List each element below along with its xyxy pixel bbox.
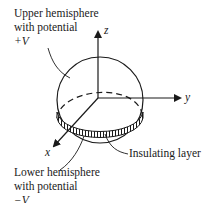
upper-label-line2: with potential — [14, 20, 99, 34]
upper-label-potential: +V — [14, 34, 99, 48]
lower-label-potential: −V — [14, 193, 100, 203]
y-axis-label: y — [185, 90, 190, 104]
lower-label-line2: with potential — [14, 179, 100, 193]
x-axis-label: x — [45, 145, 50, 159]
lower-hemisphere-label: Lower hemisphere with potential −V — [14, 165, 100, 203]
equator-back-dashed — [57, 92, 143, 118]
upper-hemisphere-label: Upper hemisphere with potential +V — [14, 6, 99, 48]
lower-label-line1: Lower hemisphere — [14, 165, 100, 179]
z-axis-label: z — [104, 23, 108, 37]
insulating-band — [57, 112, 143, 138]
upper-label-line1: Upper hemisphere — [14, 6, 99, 20]
insulating-layer-label: Insulating layer — [129, 146, 201, 160]
